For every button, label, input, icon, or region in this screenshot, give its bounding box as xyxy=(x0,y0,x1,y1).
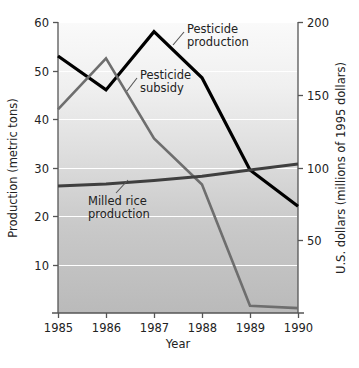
annotation-milled-rice-production: Milled rice production xyxy=(88,194,150,221)
y2-axis-title: U.S. dollars (millions of 1995 dollars) xyxy=(334,62,348,274)
chart-figure: 102030405060 50100150200 198519861987198… xyxy=(0,0,359,368)
right-tick-label: 200 xyxy=(307,16,329,30)
right-axis-tick-labels: 50100150200 xyxy=(307,16,329,248)
right-axis-ticks xyxy=(298,23,303,241)
y-axis-title: Production (metric tons) xyxy=(6,98,20,237)
x-tick-label: 1989 xyxy=(236,321,265,335)
left-tick-label: 30 xyxy=(34,162,49,176)
x-axis-tick-labels: 198519861987198819891990 xyxy=(44,321,313,335)
left-tick-label: 40 xyxy=(34,113,49,127)
annotation-pesticide-production-line1: Pesticide xyxy=(187,22,238,36)
right-tick-label: 100 xyxy=(307,162,329,176)
annotation-milled-rice-production-line2: production xyxy=(88,207,150,221)
x-tick-label: 1988 xyxy=(188,321,217,335)
x-tick-label: 1990 xyxy=(284,321,313,335)
x-tick-label: 1986 xyxy=(92,321,121,335)
annotation-milled-rice-production-line1: Milled rice xyxy=(88,194,147,208)
x-axis-title: Year xyxy=(165,337,191,351)
right-tick-label: 50 xyxy=(307,234,322,248)
left-tick-label: 50 xyxy=(34,65,49,79)
x-tick-label: 1987 xyxy=(140,321,169,335)
annotation-pesticide-subsidy: Pesticide subsidy xyxy=(140,68,191,95)
annotation-pesticide-subsidy-line1: Pesticide xyxy=(140,68,191,82)
right-tick-label: 150 xyxy=(307,89,329,103)
x-axis-ticks xyxy=(59,313,299,318)
left-tick-label: 10 xyxy=(34,259,49,273)
left-tick-label: 60 xyxy=(34,16,49,30)
line-chart: 102030405060 50100150200 198519861987198… xyxy=(0,0,359,368)
annotation-pesticide-subsidy-line2: subsidy xyxy=(140,81,184,95)
left-tick-label: 20 xyxy=(34,210,49,224)
x-tick-label: 1985 xyxy=(44,321,73,335)
left-axis-tick-labels: 102030405060 xyxy=(34,16,49,273)
annotation-pesticide-production-line2: production xyxy=(187,35,249,49)
left-axis-ticks xyxy=(53,23,58,266)
